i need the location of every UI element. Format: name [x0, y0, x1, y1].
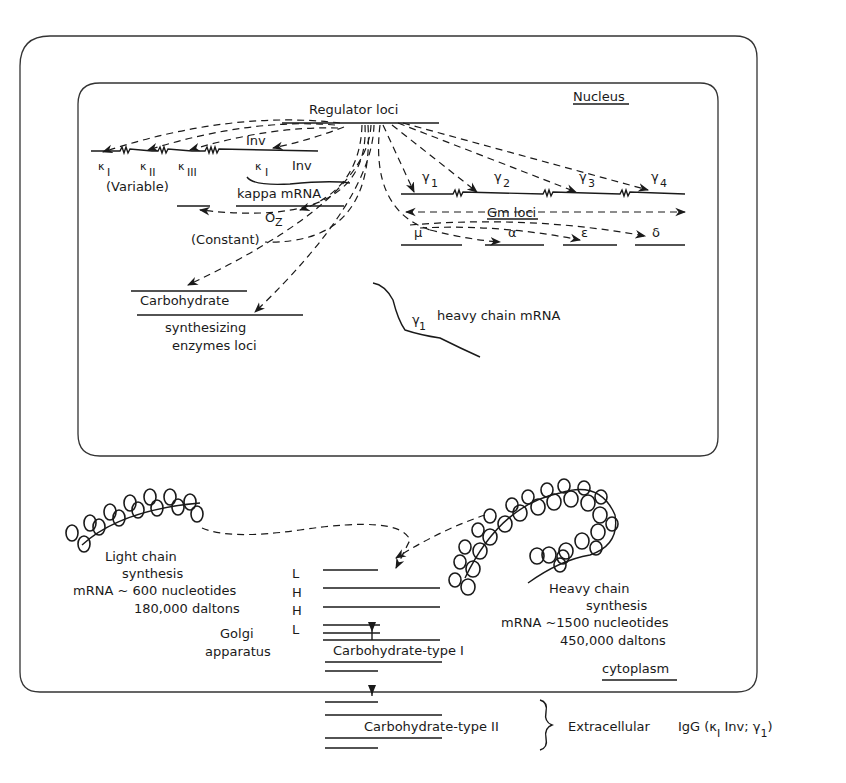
svg-text:1: 1	[419, 320, 426, 333]
carb-type1-label: Carbohydrate-type I	[333, 643, 464, 658]
svg-text:Z: Z	[275, 216, 283, 229]
carb-enzymes-label-2: enzymes loci	[172, 338, 257, 353]
brace	[540, 700, 552, 750]
svg-text:L: L	[292, 622, 300, 637]
carb-enzymes-label-1: synthesizing	[165, 320, 246, 335]
svg-text:δ: δ	[652, 225, 660, 240]
svg-text:III: III	[187, 166, 197, 179]
igg-label: IgG (κI Inv; γ1)	[678, 719, 772, 740]
light-chain-polyribosome	[66, 489, 203, 552]
regulator-loci-label: Regulator loci	[309, 102, 398, 117]
svg-text:γ: γ	[422, 169, 430, 184]
svg-text:L: L	[292, 566, 300, 581]
svg-text:κ: κ	[140, 160, 147, 173]
constant-label: (Constant)	[191, 232, 260, 247]
carb-type2-label: Carbohydrate-type II	[364, 719, 499, 734]
heavy-chain-label-1: Heavy chain	[549, 581, 629, 596]
svg-text:H: H	[292, 585, 302, 600]
svg-text:μ: μ	[414, 225, 422, 240]
heavy-chain-label-2: synthesis	[586, 598, 647, 613]
igg-synthesis-diagram: Nucleus Regulator loci κ I κ II κ III (V…	[0, 0, 846, 783]
svg-text:Inv: Inv	[292, 158, 312, 173]
light-chain-mrna-size: mRNA ~ 600 nucleotides	[73, 583, 237, 598]
nucleus-membrane	[78, 83, 718, 456]
extracellular-label: Extracellular	[568, 719, 651, 734]
svg-text:1: 1	[431, 177, 438, 190]
kappa-mrna: κ I Inv kappa mRNA	[237, 158, 350, 201]
svg-text:3: 3	[588, 177, 595, 190]
svg-text:II: II	[149, 166, 156, 179]
light-chain-mass: 180,000 daltons	[134, 601, 240, 616]
svg-text:H: H	[292, 603, 302, 618]
svg-text:γ: γ	[494, 169, 502, 184]
heavy-chain-mrna-size: mRNA ~1500 nucleotides	[501, 615, 669, 630]
svg-text:κ: κ	[255, 160, 262, 173]
cytoplasm-label: cytoplasm	[602, 661, 669, 676]
heavy-chain-mrna-label: heavy chain mRNA	[437, 308, 560, 323]
carbohydrate-label: Carbohydrate	[140, 293, 229, 308]
svg-text:4: 4	[660, 177, 667, 190]
svg-text:α: α	[508, 225, 517, 240]
heavy-chain-polyribosome	[449, 479, 618, 595]
gamma-genes: γ 1 γ 2 γ 3 γ 4	[401, 169, 685, 196]
svg-text:κ: κ	[98, 160, 105, 173]
svg-text:(Variable): (Variable)	[106, 179, 169, 194]
light-chain-label-1: Light chain	[105, 549, 177, 564]
gm-loci-label: Gm loci	[487, 205, 536, 220]
light-chain-label-2: synthesis	[122, 566, 183, 581]
nucleus-label: Nucleus	[573, 89, 625, 104]
svg-text:2: 2	[503, 177, 510, 190]
heavy-chain-mass: 450,000 daltons	[560, 633, 666, 648]
svg-text:γ: γ	[651, 169, 659, 184]
golgi-label-2: apparatus	[205, 644, 271, 659]
svg-text:κ: κ	[178, 160, 185, 173]
svg-text:I: I	[107, 166, 110, 179]
svg-text:I: I	[265, 166, 268, 179]
golgi-label-1: Golgi	[220, 626, 254, 641]
svg-text:kappa mRNA: kappa mRNA	[237, 186, 321, 201]
